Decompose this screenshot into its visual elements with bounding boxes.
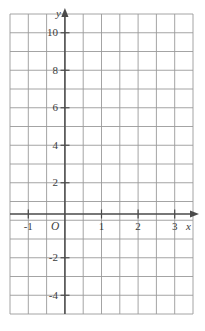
x-tick-label-neg1: -1 <box>14 221 42 232</box>
y-tick-label-6: 6 <box>30 102 58 113</box>
y-tick-label-8: 8 <box>30 65 58 76</box>
x-axis-arrowhead-icon <box>190 210 199 217</box>
y-axis <box>61 8 68 314</box>
origin-label: O <box>51 221 59 233</box>
y-tick-label-4: 4 <box>30 140 58 151</box>
y-tick-label-neg2: -2 <box>30 252 58 263</box>
x-tick-label-1: 1 <box>88 221 116 232</box>
x-axis-label: x <box>186 221 191 232</box>
y-tick-label-neg4: -4 <box>30 290 58 301</box>
y-axis-label: y <box>56 8 61 19</box>
coordinate-grid-figure: 10 8 6 4 2 -2 -4 -1 1 2 3 O y x <box>0 0 205 331</box>
y-tick-label-2: 2 <box>30 177 58 188</box>
y-tick-label-10: 10 <box>30 27 58 38</box>
y-axis-arrowhead-icon <box>61 8 68 17</box>
x-tick-label-3: 3 <box>161 221 189 232</box>
x-axis <box>10 210 199 217</box>
x-tick-label-2: 2 <box>124 221 152 232</box>
coordinate-plane-svg <box>0 0 205 331</box>
